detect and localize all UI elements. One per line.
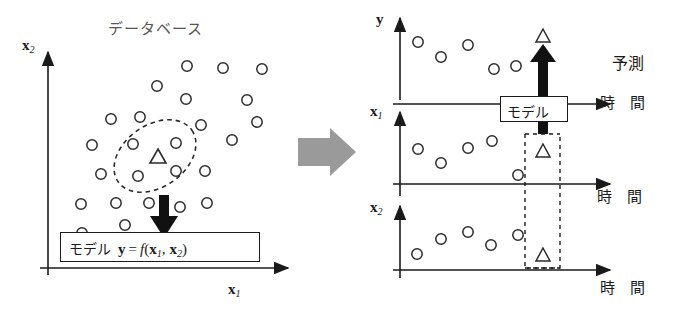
right-y-axis-label: y: [376, 12, 384, 27]
query-triangle-x2: [536, 248, 550, 261]
figure-canvas: [0, 0, 693, 320]
prediction-triangle: [536, 29, 550, 42]
right-x1-axes: [393, 112, 610, 196]
left-scatter-circles: [76, 61, 267, 238]
model-equation-box: モデルy=f(x1,x2): [60, 232, 260, 262]
left-y-axis-label: x2: [22, 38, 35, 53]
model-box-right-label: モデル: [507, 101, 549, 121]
right-x1-axis-label: x1: [370, 104, 383, 119]
database-title: データベース: [108, 22, 203, 37]
right-x2-axes: [393, 206, 610, 278]
right-y-scatter: [413, 37, 521, 74]
right-x2-scatter: [412, 227, 523, 259]
model-input-connector: [538, 122, 548, 134]
time-axis-label-x1: 時 間: [597, 190, 642, 205]
query-triangle-left: [150, 149, 166, 163]
model-box-right: モデル: [500, 96, 568, 122]
right-x2-axis-label: x2: [370, 200, 383, 215]
gray-right-arrow: [298, 128, 356, 176]
right-y-axes: [393, 18, 610, 104]
prediction-label: 予測: [612, 56, 644, 72]
right-x1-scatter: [413, 136, 523, 180]
query-triangle-x1: [536, 144, 550, 157]
time-axis-label-x2: 時 間: [600, 281, 645, 296]
time-axis-label-y: 時 間: [600, 96, 645, 111]
left-x-axis-label: x1: [228, 282, 241, 297]
model-equation-text: モデルy=f(x1,x2): [69, 238, 187, 258]
